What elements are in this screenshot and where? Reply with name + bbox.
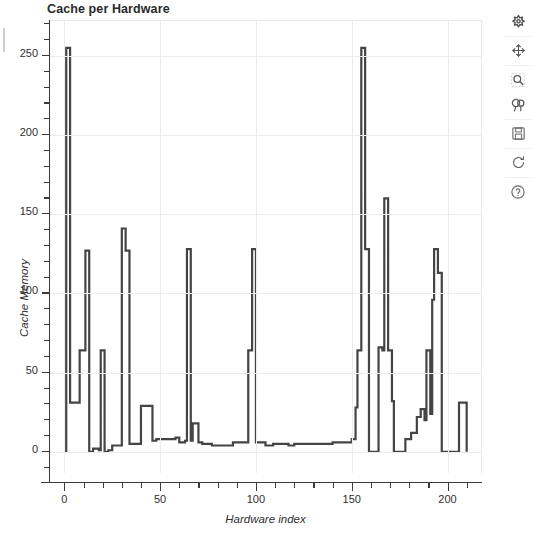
modebar-group-reset [505,149,531,178]
x-tick-minor [103,483,104,488]
data-series-svg [49,21,482,473]
x-tick-minor [294,483,295,488]
pan-icon[interactable] [505,38,531,63]
x-tick-label: 0 [61,493,67,505]
modebar-divider [3,28,5,52]
y-tick-minor [44,308,50,309]
x-tick-minor [371,483,372,488]
modebar-group-drag [505,37,531,66]
gridline-horizontal [49,373,481,374]
x-tick-minor [313,483,314,488]
y-tick-label: 200 [20,126,38,138]
y-tick-minor [44,150,50,151]
y-axis-line [49,20,50,483]
y-tick-major [42,451,50,452]
plotly-logo-icon[interactable] [505,9,531,34]
gridline-vertical [64,21,65,473]
gridline-vertical [448,21,449,473]
y-tick-major [42,55,50,56]
x-tick-label: 100 [247,493,265,505]
zoom-select-icon[interactable] [505,67,531,92]
y-tick-minor [44,182,50,183]
y-tick-minor [44,71,50,72]
x-tick-label: 200 [438,493,456,505]
x-tick-label: 50 [154,493,166,505]
x-tick-minor [141,483,142,488]
x-tick-major [256,483,257,491]
y-tick-minor [44,118,50,119]
download-plot-icon[interactable] [505,121,531,146]
y-tick-minor [44,261,50,262]
help-icon[interactable] [505,179,531,204]
x-tick-minor [218,483,219,488]
x-tick-minor [428,483,429,488]
gridline-vertical [256,21,257,473]
y-tick-minor [44,467,50,468]
x-tick-major [64,483,65,491]
gridline-horizontal [49,56,481,57]
gridline-horizontal [49,452,481,453]
x-axis-line [41,482,482,483]
modebar-group-zoom [505,66,531,120]
y-tick-minor [44,245,50,246]
y-tick-major [42,134,50,135]
x-tick-minor [275,483,276,488]
y-tick-major [42,292,50,293]
y-tick-minor [44,229,50,230]
modebar[interactable] [502,8,534,206]
y-tick-label: 250 [20,47,38,59]
x-tick-label: 150 [343,493,361,505]
x-axis-title: Hardware index [49,513,482,525]
gridline-horizontal [49,293,481,294]
gridline-vertical [352,21,353,473]
x-tick-minor [333,483,334,488]
modebar-group-download [505,120,531,149]
y-axis-title: Cache Memory [18,228,30,368]
gridline-horizontal [49,135,481,136]
y-tick-minor [44,87,50,88]
y-tick-minor [44,356,50,357]
x-tick-minor [467,483,468,488]
y-tick-major [42,213,50,214]
y-tick-major [42,372,50,373]
y-tick-minor [44,277,50,278]
y-tick-minor [44,419,50,420]
y-tick-minor [44,403,50,404]
x-tick-minor [237,483,238,488]
x-tick-minor [198,483,199,488]
gridline-horizontal [49,214,481,215]
x-tick-minor [409,483,410,488]
y-tick-minor [44,166,50,167]
chart-root: Cache per Hardware 050100150200250050100… [0,0,536,542]
y-tick-label: 150 [20,205,38,217]
gridline-vertical [160,21,161,473]
x-tick-minor [179,483,180,488]
page-title: Cache per Hardware [47,2,170,16]
x-tick-minor [84,483,85,488]
y-tick-minor [44,23,50,24]
x-tick-minor [122,483,123,488]
x-tick-major [160,483,161,491]
y-tick-minor [44,197,50,198]
autoscale-reset-icon[interactable] [505,150,531,175]
x-tick-minor [390,483,391,488]
y-tick-minor [44,340,50,341]
modebar-group-logo [505,8,531,37]
plot-area[interactable] [49,20,482,473]
y-tick-minor [44,388,50,389]
lasso-select-icon[interactable] [505,92,531,117]
cache-memory-line [64,48,466,452]
y-tick-minor [44,39,50,40]
y-tick-minor [44,435,50,436]
y-tick-label: 0 [32,443,38,455]
y-tick-minor [44,102,50,103]
x-tick-major [352,483,353,491]
x-tick-major [448,483,449,491]
y-tick-minor [44,324,50,325]
modebar-group-help [505,178,531,206]
